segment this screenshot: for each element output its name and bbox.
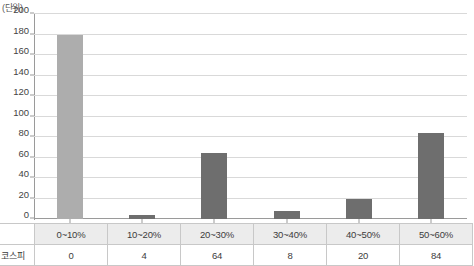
- table-header-cell: 20~30%: [181, 224, 254, 245]
- bar-slot: [323, 14, 395, 219]
- bar-slot: [34, 14, 106, 219]
- y-tick-label: 80: [18, 127, 29, 138]
- y-tick-label: 200: [13, 4, 29, 15]
- y-tick-label: 60: [18, 147, 29, 158]
- table-value-cell: 84: [400, 245, 473, 266]
- y-tick-label: 20: [18, 188, 29, 199]
- bar-series: [34, 14, 467, 219]
- table-value-row: 코스피046482084: [0, 245, 473, 266]
- bar[interactable]: [274, 211, 300, 219]
- bar[interactable]: [57, 35, 83, 220]
- y-tick-label: 100: [13, 106, 29, 117]
- y-tick-label: 140: [13, 65, 29, 76]
- bar[interactable]: [346, 199, 372, 220]
- table-corner-cell: [0, 224, 35, 245]
- bar-slot: [106, 14, 178, 219]
- bar-slot: [395, 14, 467, 219]
- y-tick-label: 120: [13, 86, 29, 97]
- y-tick-label: 180: [13, 24, 29, 35]
- y-axis-ticks: 200180160140120100806040200: [0, 14, 34, 219]
- bar-slot: [251, 14, 323, 219]
- table-header-cell: 50~60%: [400, 224, 473, 245]
- table-header-cell: 10~20%: [108, 224, 181, 245]
- bar[interactable]: [201, 153, 227, 219]
- bar-slot: [178, 14, 250, 219]
- data-table: 0~10%10~20%20~30%30~40%40~50%50~60% 코스피0…: [0, 223, 473, 266]
- table-header-cell: 30~40%: [254, 224, 327, 245]
- y-tick-label: 40: [18, 168, 29, 179]
- table-value-cell: 0: [35, 245, 108, 266]
- bar[interactable]: [418, 133, 444, 219]
- table-value-cell: 8: [254, 245, 327, 266]
- table-header-cell: 40~50%: [327, 224, 400, 245]
- table-value-cell: 4: [108, 245, 181, 266]
- table-value-cell: 20: [327, 245, 400, 266]
- y-tick-label: 0: [24, 209, 29, 220]
- table-row-label: 코스피: [0, 245, 35, 266]
- table-value-cell: 64: [181, 245, 254, 266]
- plot-area: [34, 14, 467, 219]
- table-header-row: 0~10%10~20%20~30%30~40%40~50%50~60%: [0, 224, 473, 245]
- y-tick-label: 160: [13, 45, 29, 56]
- table-header-cell: 0~10%: [35, 224, 108, 245]
